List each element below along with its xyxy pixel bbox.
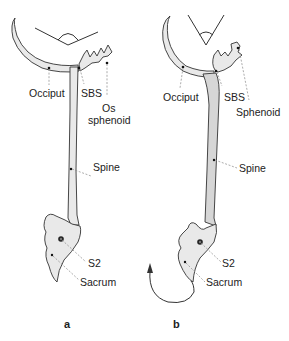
sphenoid-point-a xyxy=(106,62,109,65)
sacrum-a xyxy=(44,214,81,282)
label-occiput-a: Occiput xyxy=(29,87,65,99)
label-spine-a: Spine xyxy=(93,161,120,173)
panel-label-b: b xyxy=(173,318,180,330)
sacrum-point-a xyxy=(51,254,53,256)
occiput-point-b xyxy=(182,66,185,69)
sphenoid-point-b xyxy=(237,47,240,50)
spine-b xyxy=(203,73,219,226)
occiput-point-a xyxy=(48,67,51,70)
angle-indicator-a xyxy=(35,28,98,45)
label-sphenoid-a-line2: sphenoid xyxy=(88,114,131,126)
craniosacral-diagram: Occiput SBS Os sphenoid Spine S2 Sacrum … xyxy=(0,0,289,341)
angle-indicator-b xyxy=(188,15,224,45)
spine-point-b xyxy=(213,159,215,161)
sacrum-point-b xyxy=(184,261,186,263)
label-s2-b: S2 xyxy=(222,257,235,269)
panel-label-a: a xyxy=(64,318,71,330)
arrow-head-icon xyxy=(147,263,153,273)
panel-a: Occiput SBS Os sphenoid Spine S2 Sacrum … xyxy=(12,18,131,330)
sphenoid-bone-b xyxy=(213,42,242,72)
label-s2-a: S2 xyxy=(88,257,101,269)
label-sacrum-a: Sacrum xyxy=(80,276,116,288)
label-sphenoid-b: Sphenoid xyxy=(236,106,281,118)
label-sbs-a: SBS xyxy=(81,87,102,99)
label-occiput-b: Occiput xyxy=(163,91,199,103)
sacrum-b xyxy=(178,223,216,282)
label-sphenoid-a-line1: Os xyxy=(102,102,115,114)
label-sbs-b: SBS xyxy=(224,91,245,103)
sphenoid-bone-a xyxy=(79,45,112,71)
occiput-bone-b xyxy=(163,16,214,77)
label-sacrum-b: Sacrum xyxy=(206,276,242,288)
sbs-point-b xyxy=(215,70,218,73)
sbs-point-a xyxy=(78,67,81,70)
spine-a xyxy=(68,67,79,225)
spine-point-a xyxy=(70,168,72,170)
panel-b: Occiput SBS Sphenoid Spine S2 Sacrum b xyxy=(147,15,281,330)
label-spine-b: Spine xyxy=(239,162,266,174)
